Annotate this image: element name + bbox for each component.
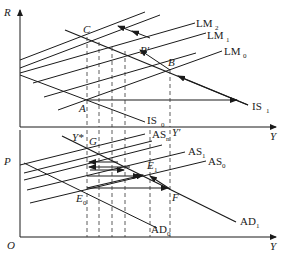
svg-text:1: 1 bbox=[226, 36, 230, 44]
ad1-label: AD 1 bbox=[240, 215, 260, 230]
svg-text:AD: AD bbox=[151, 223, 167, 235]
lower-y-axis-label: Y bbox=[270, 240, 278, 252]
svg-text:0: 0 bbox=[243, 52, 247, 60]
point-g-label: G bbox=[89, 135, 97, 147]
arrow-e0-to-e1 bbox=[87, 175, 143, 188]
svg-text:E: E bbox=[75, 192, 83, 204]
p-axis-label: P bbox=[3, 155, 11, 167]
r-axis-label: R bbox=[3, 6, 11, 18]
svg-text:LM: LM bbox=[196, 17, 213, 29]
svg-text:0: 0 bbox=[222, 162, 226, 170]
svg-text:1: 1 bbox=[202, 152, 206, 160]
origin-label: O bbox=[7, 239, 15, 251]
is0-curve bbox=[20, 75, 145, 122]
point-e0-label: E 0 bbox=[75, 192, 87, 207]
svg-text:LM: LM bbox=[224, 45, 241, 57]
y-prime-label: Y′ bbox=[172, 126, 181, 138]
svg-text:1: 1 bbox=[154, 166, 158, 174]
point-bprime-label: B′ bbox=[140, 44, 150, 56]
is-lm-as-ad-diagram: R Y C B′ B A LM 2 LM 1 LM 0 IS 1 IS 0 bbox=[0, 0, 288, 255]
lm-line-top-1 bbox=[20, 12, 145, 60]
lm1-label: LM 1 bbox=[207, 29, 230, 44]
ad1-curve bbox=[62, 136, 236, 222]
svg-text:E: E bbox=[146, 159, 154, 171]
svg-text:LM: LM bbox=[207, 29, 224, 41]
asn-curve bbox=[24, 141, 152, 173]
svg-text:AS: AS bbox=[208, 155, 222, 167]
arrow-f-to-e1 bbox=[150, 176, 170, 189]
point-c-label: C bbox=[83, 23, 91, 35]
svg-text:AD: AD bbox=[240, 215, 256, 227]
svg-text:IS: IS bbox=[252, 100, 262, 112]
svg-text:1: 1 bbox=[266, 107, 270, 115]
svg-text:AS: AS bbox=[188, 145, 202, 157]
arrow-is1-to-b bbox=[178, 76, 248, 105]
as1-label: AS 1 bbox=[188, 145, 206, 160]
svg-text:IS: IS bbox=[147, 114, 157, 126]
svg-text:AS: AS bbox=[152, 128, 166, 140]
is1-label: IS 1 bbox=[252, 100, 270, 115]
point-f-label: F bbox=[171, 191, 179, 203]
asn-label: AS n bbox=[152, 128, 170, 143]
svg-text:0: 0 bbox=[167, 230, 171, 238]
svg-text:n: n bbox=[166, 135, 170, 143]
upper-y-axis-label: Y bbox=[270, 130, 278, 142]
upper-panel-is-lm: R Y C B′ B A LM 2 LM 1 LM 0 IS 1 IS 0 bbox=[3, 6, 278, 142]
as0-label: AS 0 bbox=[208, 155, 226, 170]
point-a-label: A bbox=[78, 102, 86, 114]
lm0-label: LM 0 bbox=[224, 45, 247, 60]
point-b-label: B bbox=[168, 56, 175, 68]
y-star-label: Y* bbox=[72, 131, 84, 143]
point-e1-label: E 1 bbox=[146, 159, 158, 174]
svg-text:0: 0 bbox=[83, 199, 87, 207]
ad0-label: AD 0 bbox=[151, 223, 171, 238]
lower-panel-as-ad: P O Y Y* Y′ G E 1 E 0 F AS n AS 1 AS 0 A… bbox=[3, 126, 278, 252]
svg-text:1: 1 bbox=[256, 222, 260, 230]
